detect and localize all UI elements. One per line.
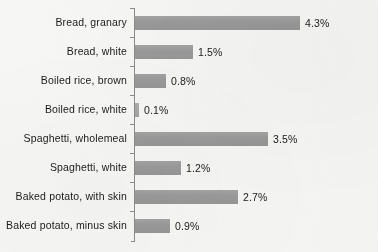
bar-row: Boiled rice, brown 0.8% [0,66,378,95]
bar-row: Spaghetti, wholemeal 3.5% [0,124,378,153]
category-label: Bread, granary [0,8,127,37]
value-label: 0.1% [144,104,169,116]
bar-chart: Bread, granary 4.3% Bread, white 1.5% Bo… [0,0,378,252]
bar-row: Baked potato, minus skin 0.9% [0,211,378,240]
value-label: 3.5% [273,133,298,145]
plot-area: Bread, granary 4.3% Bread, white 1.5% Bo… [0,0,378,252]
bar-group: 0.1% [135,95,169,124]
bar[interactable] [135,161,181,175]
bar[interactable] [135,219,170,233]
bar-group: 0.9% [135,211,200,240]
bar-group: 1.2% [135,153,211,182]
category-label: Boiled rice, white [0,95,127,124]
bar[interactable] [135,132,268,146]
value-label: 1.5% [198,46,223,58]
axis-bottom-cap [131,241,135,242]
bar-group: 0.8% [135,66,196,95]
bar-row: Bread, white 1.5% [0,37,378,66]
category-label: Baked potato, minus skin [0,211,127,240]
bar-row: Bread, granary 4.3% [0,8,378,37]
bar-group: 2.7% [135,182,268,211]
bar-row: Spaghetti, white 1.2% [0,153,378,182]
category-label: Spaghetti, white [0,153,127,182]
bar[interactable] [135,16,300,30]
bar[interactable] [135,103,139,117]
bar-row: Boiled rice, white 0.1% [0,95,378,124]
bar-row: Baked potato, with skin 2.7% [0,182,378,211]
value-label: 1.2% [186,162,211,174]
value-label: 2.7% [243,191,268,203]
value-label: 0.8% [171,75,196,87]
category-label: Spaghetti, wholemeal [0,124,127,153]
category-label: Boiled rice, brown [0,66,127,95]
category-label: Bread, white [0,37,127,66]
bar-group: 4.3% [135,8,330,37]
bar-group: 3.5% [135,124,298,153]
bar[interactable] [135,74,166,88]
bar[interactable] [135,45,193,59]
value-label: 4.3% [305,17,330,29]
category-label: Baked potato, with skin [0,182,127,211]
bar-group: 1.5% [135,37,223,66]
value-label: 0.9% [175,220,200,232]
bar[interactable] [135,190,238,204]
